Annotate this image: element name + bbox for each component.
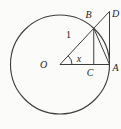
chord-b-a [94, 28, 110, 64]
label-point-c: C [87, 67, 94, 78]
angle-arc [68, 56, 72, 65]
label-point-b: B [85, 9, 91, 20]
unit-circle-diagram: O B D A C 1 x [0, 0, 121, 129]
label-center-o: O [40, 59, 47, 70]
label-point-a: A [111, 62, 119, 73]
label-point-d: D [111, 8, 120, 19]
label-radius-one: 1 [66, 29, 71, 40]
geometry-figure: O B D A C 1 x [0, 0, 121, 129]
label-angle-x: x [76, 53, 82, 64]
